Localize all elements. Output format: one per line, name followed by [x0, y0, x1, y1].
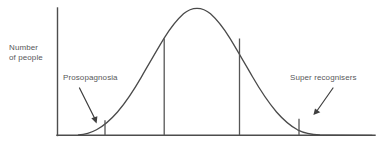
- bell-curve-figure: Number of people Prosopagnosia Super rec…: [0, 0, 379, 148]
- y-axis-label-line2: of people: [9, 53, 43, 63]
- bell-curve-path: [79, 8, 373, 135]
- annotation-label-super-recognisers: Super recognisers: [290, 73, 357, 83]
- annotation-label-prosopagnosia: Prosopagnosia: [63, 73, 118, 83]
- y-axis-label: Number of people: [9, 43, 43, 63]
- arrow-head-super-recognisers: [313, 109, 320, 116]
- y-axis-label-line1: Number: [9, 43, 43, 53]
- arrow-head-prosopagnosia: [91, 116, 97, 123]
- arrow-line-super-recognisers: [317, 88, 334, 112]
- arrow-line-prosopagnosia: [80, 88, 96, 119]
